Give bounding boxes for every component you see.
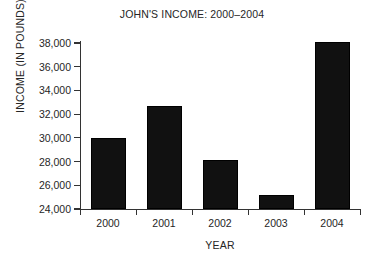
x-axis-tick	[248, 209, 249, 215]
y-axis-tick-label: 30,000	[39, 133, 71, 144]
x-axis-tick-label: 2004	[302, 217, 362, 229]
x-axis-tick	[80, 209, 81, 215]
chart-title: JOHN'S INCOME: 2000–2004	[0, 8, 384, 20]
y-axis-tick-label: 32,000	[39, 109, 71, 120]
bar	[259, 195, 294, 209]
y-axis-tick-label: 26,000	[39, 180, 71, 191]
y-axis-tick-label: 28,000	[39, 156, 71, 167]
x-axis-tick	[360, 209, 361, 215]
x-axis-tick	[304, 209, 305, 215]
x-axis-tick	[192, 209, 193, 215]
y-axis-tick-label: 38,000	[39, 38, 71, 49]
y-axis-tick-label: 24,000	[39, 204, 71, 215]
x-axis-tick-label: 2003	[246, 217, 306, 229]
x-axis-tick-label: 2000	[78, 217, 138, 229]
y-axis-title: INCOME (IN POUNDS)	[14, 0, 26, 136]
x-axis-tick-label: 2002	[190, 217, 250, 229]
x-axis-tick	[136, 209, 137, 215]
x-axis-title: YEAR	[80, 239, 360, 251]
bar	[91, 138, 126, 209]
bar	[147, 106, 182, 209]
bar	[203, 160, 238, 209]
plot-area	[80, 43, 360, 209]
bar-chart-figure: JOHN'S INCOME: 2000–2004 INCOME (IN POUN…	[0, 0, 384, 263]
bar	[315, 42, 350, 209]
x-axis-tick-label: 2001	[134, 217, 194, 229]
y-axis-tick-label: 34,000	[39, 85, 71, 96]
y-axis-tick-label: 36,000	[39, 61, 71, 72]
